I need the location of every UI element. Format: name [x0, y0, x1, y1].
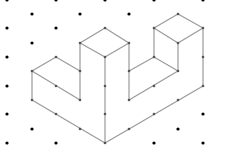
- vertex-dot: [153, 27, 156, 30]
- grid-dot: [201, 0, 204, 2]
- edge-line: [154, 28, 178, 43]
- vertex-dot: [128, 128, 131, 131]
- vertex-dot: [79, 70, 82, 73]
- edge-line: [32, 100, 105, 143]
- vertex-dot: [31, 99, 34, 102]
- vertex-dot: [79, 99, 82, 102]
- edge-line: [178, 28, 203, 43]
- edge-line: [154, 57, 178, 71]
- edge-line: [105, 28, 129, 43]
- grid-dot: [152, 141, 155, 144]
- grid-dot: [5, 0, 8, 2]
- vertex-dot: [104, 27, 107, 30]
- vertex-dot: [31, 70, 34, 73]
- vertex-dot: [128, 70, 131, 73]
- grid-dot: [30, 41, 33, 44]
- edge-line: [80, 28, 105, 43]
- vertex-dot: [55, 85, 58, 88]
- grid-dot: [127, 12, 130, 15]
- grid-dot: [152, 0, 155, 2]
- grid-dot: [5, 141, 8, 144]
- vertex-dot: [104, 56, 107, 59]
- vertex-dot: [79, 42, 82, 45]
- vertex-dot: [202, 85, 205, 88]
- shape-edges: [32, 14, 203, 143]
- vertex-dot: [153, 85, 156, 88]
- edge-line: [80, 43, 105, 57]
- vertex-dot: [153, 56, 156, 59]
- edge-line: [154, 14, 178, 28]
- edge-line: [56, 57, 80, 71]
- vertex-dot: [55, 56, 58, 59]
- grid-dot: [5, 55, 8, 58]
- grid-dot: [201, 141, 204, 144]
- vertex-dot: [177, 70, 180, 73]
- vertex-dot: [104, 142, 107, 145]
- grid-dot: [201, 112, 204, 115]
- vertex-dot: [128, 42, 131, 45]
- grid-dot: [5, 112, 8, 115]
- vertex-dot: [79, 128, 82, 131]
- edge-line: [105, 43, 129, 57]
- vertex-dot: [202, 27, 205, 30]
- vertex-dot: [202, 56, 205, 59]
- vertex-dot: [177, 13, 180, 16]
- grid-dot: [54, 141, 57, 144]
- vertex-dot: [153, 113, 156, 116]
- edge-line: [129, 57, 154, 71]
- edge-line: [32, 57, 56, 71]
- grid-dot: [103, 0, 106, 2]
- grid-dot: [5, 84, 8, 87]
- isometric-drawing: [0, 0, 225, 155]
- edge-line: [178, 14, 203, 28]
- vertex-dot: [55, 113, 58, 116]
- isometric-canvas: [0, 0, 225, 155]
- grid-dot: [54, 0, 57, 2]
- vertex-dot: [177, 99, 180, 102]
- grid-dot: [78, 12, 81, 15]
- vertex-dot: [128, 99, 131, 102]
- grid-dot: [30, 12, 33, 15]
- vertex-dot: [177, 42, 180, 45]
- vertex-dot: [104, 113, 107, 116]
- shape-vertices: [31, 13, 205, 145]
- grid-dot: [5, 26, 8, 29]
- vertex-dot: [104, 85, 107, 88]
- grid-dot: [54, 26, 57, 29]
- grid-dot: [176, 127, 179, 130]
- grid-dot: [30, 127, 33, 130]
